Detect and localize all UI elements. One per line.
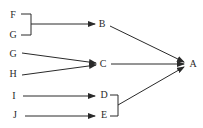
node-g: G <box>9 49 16 59</box>
node-g-top: G <box>9 30 16 40</box>
node-j: J <box>13 110 17 120</box>
node-h: H <box>9 69 16 79</box>
node-i: I <box>12 91 15 101</box>
edge-de-to-a <box>118 67 184 105</box>
node-c: C <box>100 59 107 69</box>
bracket-d-e <box>110 95 118 116</box>
causal-diagram: F G G H I J B C D E A <box>0 0 203 128</box>
edge-h-to-c <box>22 65 96 75</box>
edge-b-to-a <box>110 26 184 62</box>
node-a: A <box>189 59 196 69</box>
node-b: B <box>99 19 106 29</box>
bracket-f-g <box>21 14 31 35</box>
node-f: F <box>10 10 16 20</box>
node-d: D <box>100 90 107 100</box>
node-e: E <box>101 110 107 120</box>
edge-g-to-c <box>22 53 96 63</box>
